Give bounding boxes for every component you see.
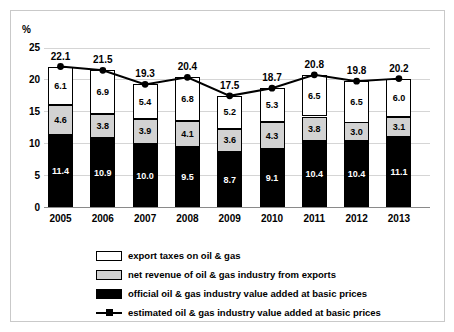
- x-axis-tick-2012: 2012: [334, 213, 380, 224]
- bar-segment-black: 9.5: [175, 147, 200, 208]
- legend-label: estimated oil & gas industry value added…: [128, 307, 381, 318]
- bar-2013: 6.03.111.1: [386, 79, 411, 208]
- y-axis-tick-0: 0: [14, 203, 40, 213]
- bar-segment-gray: 4.6: [48, 105, 73, 134]
- bar-segment-white: 5.3: [260, 88, 285, 122]
- bar-segment-white: 6.5: [344, 81, 369, 122]
- y-axis-unit-label: %: [22, 24, 31, 35]
- x-axis-tick-2006: 2006: [80, 213, 126, 224]
- legend-item-export-taxes: export taxes on oil & gas: [96, 246, 416, 265]
- bar-segment-white: 6.5: [302, 75, 327, 116]
- legend-label: net revenue of oil & gas industry from e…: [128, 269, 336, 280]
- bar-segment-black: 8.7: [217, 152, 242, 208]
- bar-segment-white: 6.9: [90, 70, 115, 114]
- total-label-2013: 20.2: [376, 64, 422, 74]
- legend-item-official-value-added: official oil & gas industry value added …: [96, 284, 416, 303]
- bar-2007: 5.43.910.0: [133, 84, 158, 207]
- bar-segment-black: 10.4: [344, 141, 369, 207]
- legend-item-estimated-value-added: estimated oil & gas industry value added…: [96, 303, 416, 322]
- gray-swatch-icon: [96, 270, 122, 280]
- total-label-2011: 20.8: [291, 60, 337, 70]
- x-axis-tick-2013: 2013: [376, 213, 422, 224]
- total-label-2012: 19.8: [334, 66, 380, 76]
- bar-segment-white: 6.0: [386, 79, 411, 117]
- bar-segment-black: 11.4: [48, 135, 73, 208]
- chart-legend: export taxes on oil & gas net revenue of…: [96, 246, 416, 322]
- legend-label: official oil & gas industry value added …: [128, 288, 367, 299]
- total-label-2008: 20.4: [164, 62, 210, 72]
- y-axis-tick-25: 25: [14, 43, 40, 53]
- bar-segment-gray: 3.8: [302, 117, 327, 141]
- total-label-2006: 21.5: [80, 55, 126, 65]
- bar-segment-gray: 4.1: [175, 121, 200, 147]
- bar-segment-gray: 3.8: [90, 114, 115, 138]
- bar-segment-gray: 4.3: [260, 122, 285, 149]
- x-axis-tick-2011: 2011: [291, 213, 337, 224]
- x-axis-tick-2005: 2005: [38, 213, 84, 224]
- bar-segment-gray: 3.6: [217, 129, 242, 152]
- legend-label: export taxes on oil & gas: [128, 250, 240, 261]
- bar-2012: 6.53.010.4: [344, 81, 369, 207]
- y-axis-tick-10: 10: [14, 139, 40, 149]
- bar-2008: 6.84.19.5: [175, 77, 200, 207]
- x-axis-tick-2009: 2009: [207, 213, 253, 224]
- black-swatch-icon: [96, 289, 122, 299]
- bar-segment-black: 10.9: [90, 138, 115, 208]
- x-axis-tick-2010: 2010: [249, 213, 295, 224]
- bar-2011: 6.53.810.4: [302, 75, 327, 208]
- total-label-2010: 18.7: [249, 73, 295, 83]
- bar-2005: 6.14.611.4: [48, 67, 73, 208]
- bar-segment-white: 6.8: [175, 77, 200, 120]
- bar-2009: 5.23.68.7: [217, 96, 242, 208]
- bar-segment-white: 5.4: [133, 84, 158, 118]
- bar-2010: 5.34.39.1: [260, 88, 285, 207]
- y-axis-tick-20: 20: [14, 75, 40, 85]
- line-marker-icon: [96, 308, 122, 318]
- total-label-2007: 19.3: [122, 69, 168, 79]
- y-axis-tick-15: 15: [14, 107, 40, 117]
- bar-segment-white: 5.2: [217, 96, 242, 129]
- bar-segment-black: 11.1: [386, 137, 411, 208]
- bar-segment-gray: 3.9: [133, 119, 158, 144]
- bar-segment-gray: 3.0: [344, 122, 369, 141]
- total-label-2005: 22.1: [38, 52, 84, 62]
- bar-segment-gray: 3.1: [386, 117, 411, 137]
- bar-segment-black: 9.1: [260, 149, 285, 207]
- y-axis-tick-5: 5: [14, 171, 40, 181]
- gridline-25: [44, 48, 430, 49]
- bar-segment-black: 10.0: [133, 144, 158, 208]
- white-swatch-icon: [96, 251, 122, 261]
- x-axis-tick-2007: 2007: [122, 213, 168, 224]
- x-axis-tick-2008: 2008: [164, 213, 210, 224]
- bar-2006: 6.93.810.9: [90, 70, 115, 207]
- legend-item-net-revenue: net revenue of oil & gas industry from e…: [96, 265, 416, 284]
- total-label-2009: 17.5: [207, 81, 253, 91]
- bar-segment-black: 10.4: [302, 141, 327, 207]
- bar-segment-white: 6.1: [48, 67, 73, 106]
